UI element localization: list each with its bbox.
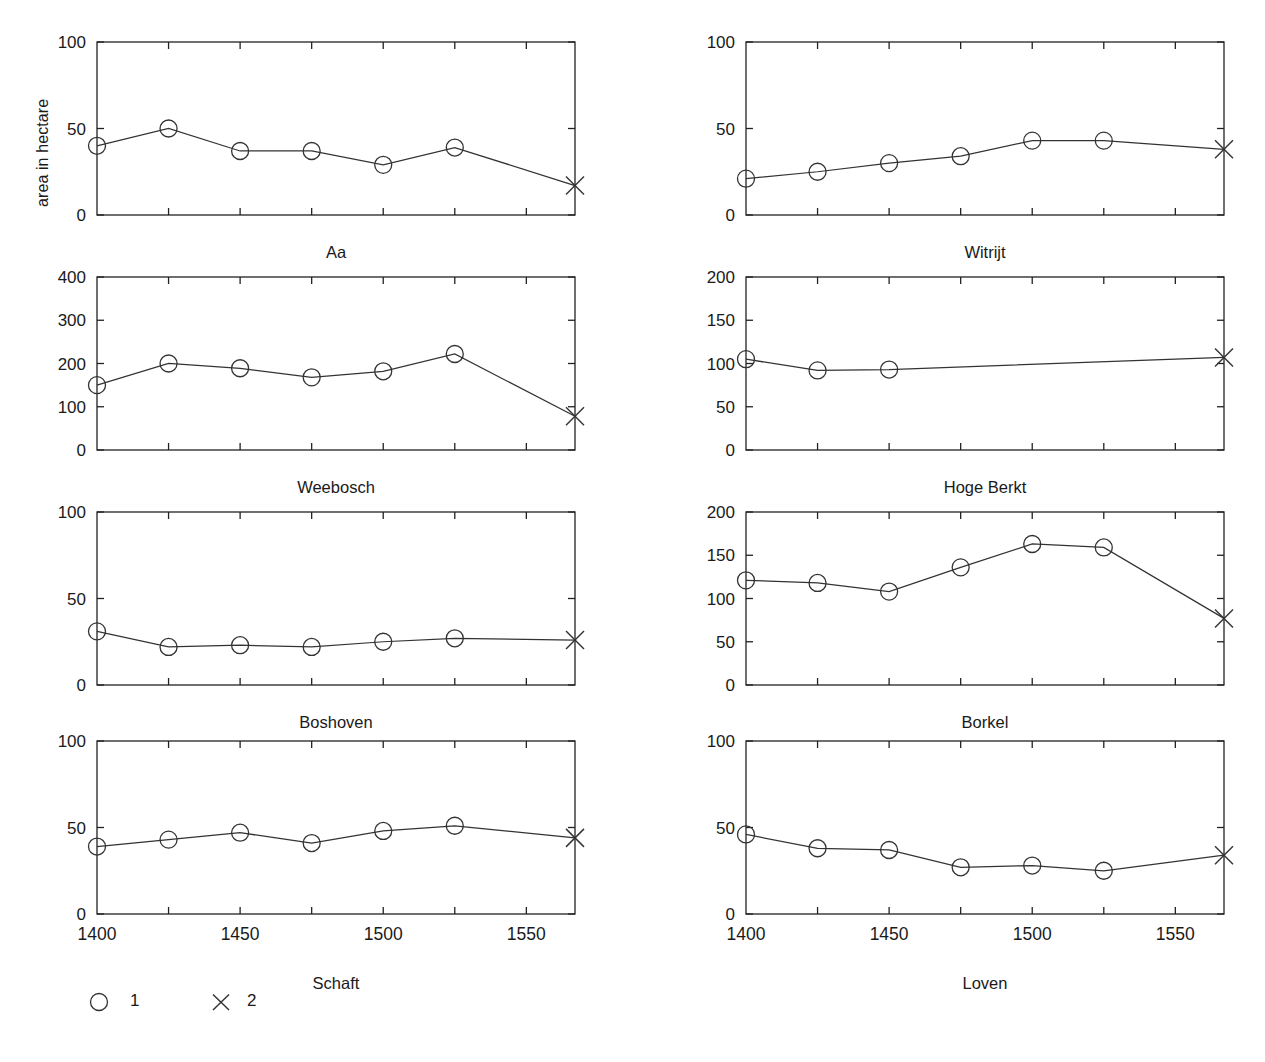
x-tick-label: 1500 xyxy=(1013,924,1052,944)
svg-text:0: 0 xyxy=(726,905,735,924)
x-tick-label: 1550 xyxy=(1156,924,1195,944)
y-axis-label: area in hectare xyxy=(34,99,52,207)
plot-area-loven: 0501001400145015001550 xyxy=(0,0,1265,988)
legend-symbols xyxy=(88,985,348,1019)
legend-label-1: 1 xyxy=(130,991,139,1011)
legend-cross-icon xyxy=(213,995,229,1011)
x-tick-label: 1450 xyxy=(870,924,909,944)
svg-text:100: 100 xyxy=(707,732,735,751)
svg-text:50: 50 xyxy=(716,819,735,838)
small-multiples-chart-grid: 050100Aa050100Witrijt0100200300400Weebos… xyxy=(0,0,1265,980)
x-tick-label: 1400 xyxy=(727,924,766,944)
legend-label-2: 2 xyxy=(247,991,256,1011)
legend-circle-icon xyxy=(91,994,108,1011)
chart-legend: 1 2 xyxy=(0,985,1265,1025)
